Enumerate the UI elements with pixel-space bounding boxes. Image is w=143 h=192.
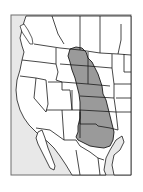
map-svg bbox=[0, 0, 143, 192]
range-map bbox=[0, 0, 143, 192]
